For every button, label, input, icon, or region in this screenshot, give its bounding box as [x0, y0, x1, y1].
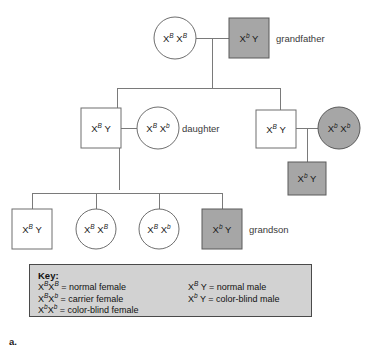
genotype-label: Xb Y: [298, 171, 317, 183]
allele-2-sup: b: [54, 292, 58, 299]
legend-row-colorblind-female: XbXb = color-blind female: [38, 305, 188, 317]
allele-2-sup: B: [54, 280, 58, 287]
legend-row-carrier-female: XBXb = carrier female: [38, 294, 188, 306]
role-label-grandson: grandson: [249, 224, 289, 235]
genotype-label: Xb Y: [240, 31, 259, 43]
individual-g3-child-1[interactable]: XB Y: [12, 209, 52, 249]
allele-1-sup: B: [194, 280, 198, 287]
individual-g2-son[interactable]: XB Y: [256, 110, 296, 148]
genotype-label: XB Y: [22, 222, 42, 234]
legend-row-normal-female: XBXB = normal female: [38, 282, 188, 294]
individual-g2-daughter-in-law[interactable]: Xb Xb: [318, 107, 360, 149]
legend-column-male: XB Y = normal male Xb Y = color-blind ma…: [188, 282, 280, 317]
allele-2: Y: [200, 294, 206, 304]
legend-text: = carrier female: [61, 294, 124, 304]
legend-key-box: Key: XBXB = normal female XBXb = carrier…: [29, 264, 312, 317]
legend-text: = color-blind female: [60, 305, 139, 315]
legend-row-colorblind-male: Xb Y = color-blind male: [188, 294, 280, 306]
individual-g2-daughter[interactable]: XB Xb daughter: [137, 107, 220, 149]
legend-text: = normal male: [209, 282, 266, 292]
figure-label: a.: [9, 336, 17, 347]
individual-g2-son-in-law[interactable]: XB Y: [81, 108, 121, 148]
genotype-label: Xb Y: [213, 222, 232, 234]
role-label-daughter: daughter: [182, 123, 220, 134]
individual-g3-child-3[interactable]: XB Xb: [139, 209, 179, 249]
individual-g1-grandmother[interactable]: XB XB: [154, 17, 196, 59]
legend-row-normal-male: XB Y = normal male: [188, 282, 280, 294]
individual-g3-nephew[interactable]: Xb Y: [288, 162, 326, 195]
legend-text: = color-blind male: [208, 294, 279, 304]
allele-2: Y: [201, 282, 207, 292]
individual-g3-grandson[interactable]: Xb Y grandson: [202, 209, 289, 249]
legend-title: Key:: [38, 270, 311, 281]
genotype-label: XB Y: [266, 122, 286, 134]
individual-g3-child-2[interactable]: XB XB: [76, 209, 116, 249]
allele-1-sup: b: [194, 292, 198, 299]
genotype-label: XB Y: [91, 121, 111, 133]
role-label-grandfather: grandfather: [276, 33, 325, 44]
individual-g1-grandfather[interactable]: Xb Y grandfather: [229, 18, 325, 58]
allele-2-sup: b: [54, 303, 58, 310]
legend-column-female: XBXB = normal female XBXb = carrier fema…: [38, 282, 188, 317]
legend-text: = normal female: [61, 282, 126, 292]
